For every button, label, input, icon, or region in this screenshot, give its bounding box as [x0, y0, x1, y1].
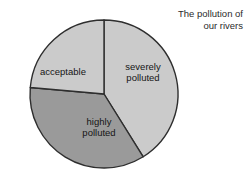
pie-slice-acceptable[interactable]	[30, 20, 104, 94]
pie-label-severely-polluted: severely polluted	[125, 61, 160, 83]
pie-slices	[30, 20, 178, 168]
chart-title: The pollution of our rivers	[133, 8, 243, 31]
pie-label-highly-polluted: highly polluted	[82, 116, 115, 138]
pie-chart-figure: The pollution of our rivers severely pol…	[0, 0, 247, 181]
pie-label-acceptable: acceptable	[40, 66, 86, 77]
